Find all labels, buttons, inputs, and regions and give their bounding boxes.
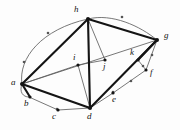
vertex-h[interactable] [86,17,90,21]
vertex-f[interactable] [144,68,147,71]
edge-k-f [138,60,146,70]
node-label-c: c [52,112,56,121]
edge-h-g [88,19,157,40]
arrow-marker-a-h-1 [23,61,26,64]
node-label-a: a [11,78,16,87]
arrow-marker-h-g-1 [121,16,124,19]
vertex-a[interactable] [20,82,24,86]
graph-figure: a b c d e f g h i j k [0,0,180,130]
vertex-i[interactable] [76,63,79,66]
edge-b-c [29,97,58,110]
vertex-d[interactable] [88,106,92,110]
vertex-g[interactable] [155,38,159,42]
node-label-j: j [103,62,106,71]
node-label-h: h [74,5,79,14]
node-label-e: e [112,95,116,104]
edge-a-d [22,84,90,108]
arrow-marker-k-f-1 [142,65,145,68]
edge-a-h [22,19,88,84]
vertex-k[interactable] [136,58,139,61]
arrow-marker-g-f-1 [151,54,154,57]
thick-edge-group [22,19,157,108]
edge-c-d [58,108,90,110]
node-label-g: g [164,31,169,40]
node-label-k: k [130,48,134,57]
edge-f-e [113,70,146,93]
node-label-b: b [24,99,29,108]
node-label-d: d [87,112,92,121]
vertex-c[interactable] [56,108,59,111]
edge-h-j [88,19,105,60]
edge-h-d [88,19,90,108]
arrow-marker-a-h-2 [47,32,50,35]
edge-i-j [78,60,105,65]
node-label-i: i [73,53,76,62]
node-label-f: f [150,68,153,77]
arrow-marker-f-e-1 [130,80,133,83]
